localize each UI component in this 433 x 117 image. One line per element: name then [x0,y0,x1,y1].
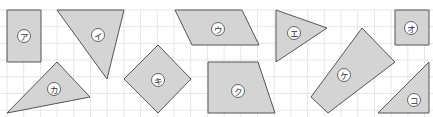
shape-ka-triangle: カ [7,62,90,113]
shape-label: キ [154,76,163,86]
shape-label: ク [234,87,243,97]
shape-label: オ [407,24,416,34]
shape-label: ア [20,32,29,42]
shape-u-parallelogram: ウ [175,10,259,45]
shape-e-triangle: エ [276,10,327,62]
shape-ke-quadrilateral: ケ [311,28,395,113]
shape-label: ケ [340,71,349,81]
shape-a-rectangle: ア [7,10,41,62]
shape-label: イ [94,31,103,41]
shapes-diagram: アイウエオカキクケコ [0,0,433,117]
shape-label: カ [50,85,59,95]
shape-o-square: オ [395,10,429,45]
shapes-layer: アイウエオカキクケコ [7,10,429,113]
shape-label: エ [290,29,299,39]
shape-label: コ [410,96,419,106]
shape-ku-trapezoid: ク [208,62,275,113]
triangle-polygon [276,10,327,62]
quadrilateral-polygon [311,28,395,113]
shape-ki-rhombus: キ [124,45,191,113]
shape-label: ウ [214,25,223,35]
